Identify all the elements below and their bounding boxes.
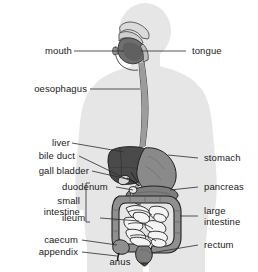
label-ileum: ileum xyxy=(62,213,85,224)
label-liver: liver xyxy=(20,138,70,149)
digestive-system-diagram: mouth oesophagus liver bile duct gall bl… xyxy=(0,0,258,272)
ileum-organ xyxy=(124,206,168,248)
label-oesophagus: oesophagus xyxy=(10,84,87,95)
label-rectum: rectum xyxy=(204,240,234,251)
label-appendix: appendix xyxy=(14,247,78,258)
label-small-intestine-line1: small xyxy=(18,195,80,206)
label-caecum: caecum xyxy=(20,235,78,246)
label-gall-bladder: gall bladder xyxy=(5,166,89,177)
caecum-organ xyxy=(113,240,130,254)
label-bile-duct: bile duct xyxy=(10,151,75,162)
label-anus: anus xyxy=(102,257,138,268)
label-tongue: tongue xyxy=(192,46,222,57)
label-stomach: stomach xyxy=(204,153,241,164)
diagram-canvas xyxy=(0,0,258,272)
label-duodenum: duodenum xyxy=(62,182,108,193)
label-large-intestine-line2: intestine xyxy=(204,216,240,227)
label-mouth: mouth xyxy=(22,46,72,57)
rectum-organ xyxy=(136,246,153,264)
label-large-intestine-line1: large xyxy=(204,205,226,216)
label-pancreas: pancreas xyxy=(204,182,244,193)
